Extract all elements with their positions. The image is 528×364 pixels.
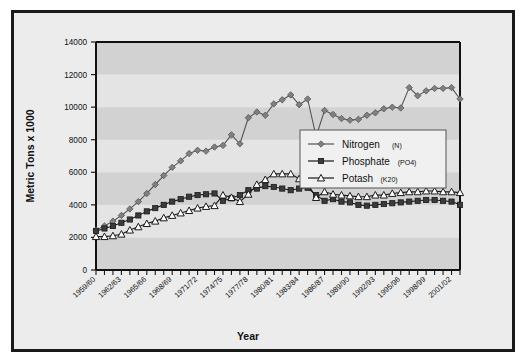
legend-label: Nitrogen: [342, 139, 380, 150]
x-axis-title: Year: [237, 330, 259, 342]
data-point: [390, 201, 395, 206]
plot-band: [96, 42, 460, 75]
data-point: [203, 192, 208, 197]
data-point: [415, 198, 420, 203]
legend-marker: [318, 158, 323, 163]
data-point: [144, 209, 149, 214]
data-point: [263, 184, 268, 189]
data-point: [110, 223, 115, 228]
data-point: [432, 197, 437, 202]
data-point: [271, 184, 276, 189]
x-tick-label: 1974/75: [198, 275, 224, 300]
data-point: [136, 213, 141, 218]
x-axis: 1959/601962/631965/661968/691971/721974/…: [71, 270, 460, 300]
x-tick-label: 1995/96: [376, 275, 402, 300]
x-tick-label: 1977/78: [223, 275, 249, 300]
data-point: [339, 199, 344, 204]
y-tick-label: 0: [82, 266, 87, 275]
data-point: [119, 220, 124, 225]
data-point: [364, 203, 369, 208]
data-point: [237, 192, 242, 197]
data-point: [381, 201, 386, 206]
data-point: [457, 202, 462, 207]
x-tick-label: 1959/60: [71, 275, 97, 300]
data-point: [373, 202, 378, 207]
chart-plot-wrapper: 020004000600080001000012000140001959/601…: [0, 0, 528, 364]
data-point: [280, 186, 285, 191]
y-tick-label: 12000: [64, 71, 87, 80]
data-point: [398, 200, 403, 205]
data-point: [356, 202, 361, 207]
x-tick-label: 1968/69: [147, 275, 173, 300]
y-tick-label: 4000: [69, 201, 88, 210]
data-point: [322, 198, 327, 203]
data-point: [407, 199, 412, 204]
legend-sublabel: (N): [392, 142, 402, 150]
data-point: [170, 199, 175, 204]
y-axis-title: Metric Tons x 1000: [24, 109, 36, 202]
chart-figure: 020004000600080001000012000140001959/601…: [0, 0, 528, 364]
data-point: [220, 198, 225, 203]
x-tick-label: 1992/93: [350, 275, 376, 300]
y-axis: 02000400060008000100001200014000: [64, 38, 96, 275]
data-point: [288, 188, 293, 193]
data-point: [161, 202, 166, 207]
y-tick-label: 6000: [69, 168, 88, 177]
data-point: [440, 198, 445, 203]
data-point: [195, 192, 200, 197]
data-point: [187, 194, 192, 199]
fertilizer-consumption-chart: 020004000600080001000012000140001959/601…: [0, 0, 528, 364]
legend-sublabel: (K20): [381, 176, 398, 184]
x-tick-label: 2001/02: [426, 275, 452, 300]
y-tick-label: 2000: [69, 233, 88, 242]
data-point: [178, 197, 183, 202]
x-tick-label: 1986/87: [299, 275, 325, 300]
data-point: [347, 200, 352, 205]
y-tick-label: 14000: [64, 38, 87, 47]
data-point: [127, 217, 132, 222]
x-tick-label: 1989/90: [325, 275, 351, 300]
x-tick-label: 1998/99: [401, 275, 427, 300]
data-point: [102, 226, 107, 231]
data-point: [449, 199, 454, 204]
x-tick-label: 1965/66: [122, 275, 148, 300]
legend-label: Potash: [342, 173, 373, 184]
data-point: [212, 191, 217, 196]
x-tick-label: 1980/81: [249, 275, 275, 300]
data-point: [153, 206, 158, 211]
legend-label: Phosphate: [342, 156, 390, 167]
x-tick-label: 1971/72: [172, 275, 198, 300]
chart-legend: Nitrogen(N)Phosphate(PO4)Potash(K20): [300, 130, 446, 188]
data-point: [424, 197, 429, 202]
x-tick-label: 1983/84: [274, 275, 300, 300]
legend-sublabel: (PO4): [398, 159, 417, 167]
x-tick-label: 1962/63: [96, 275, 122, 300]
y-tick-label: 8000: [69, 136, 88, 145]
y-tick-label: 10000: [64, 103, 87, 112]
plot-band: [96, 237, 460, 270]
